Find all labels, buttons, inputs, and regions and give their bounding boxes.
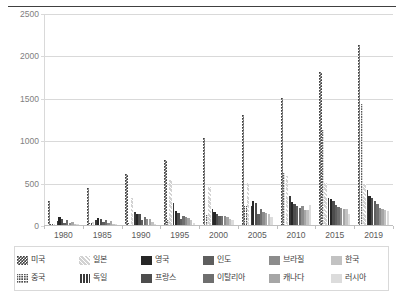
legend-item-한국[interactable]: 한국 <box>331 256 393 265</box>
chart-legend: 미국일본영국인도브라질한국중국독일프랑스이탈리아캐나다러시아 <box>14 246 389 291</box>
bar-russia-2000 <box>231 220 233 225</box>
bar-group <box>164 13 195 225</box>
x-tick-mark <box>354 226 355 229</box>
legend-item-독일[interactable]: 독일 <box>79 274 141 283</box>
legend-item-중국[interactable]: 중국 <box>17 274 79 283</box>
x-tick-mark <box>160 226 161 229</box>
bar-group <box>319 13 350 225</box>
legend-label: 중국 <box>31 274 45 282</box>
bar-usa-1990 <box>125 174 127 225</box>
legend-label: 러시아 <box>345 274 366 282</box>
bar-group <box>125 13 156 225</box>
x-tick-label: 2000 <box>209 230 228 240</box>
bar-russia-1990 <box>154 224 156 225</box>
y-tick-mark <box>41 56 44 57</box>
y-tick-label: 1000 <box>20 136 39 146</box>
legend-swatch-icon <box>203 256 214 265</box>
x-tick-label: 1985 <box>93 230 112 240</box>
y-tick-label: 500 <box>25 179 39 189</box>
x-tick-mark <box>122 226 123 229</box>
x-tick-label: 1990 <box>131 230 150 240</box>
bar-group <box>358 13 389 225</box>
x-tick-label: 1995 <box>170 230 189 240</box>
y-tick-label: 0 <box>34 221 39 231</box>
x-tick-mark <box>83 226 84 229</box>
legend-label: 프랑스 <box>155 274 176 282</box>
bar-usa-1980 <box>48 201 50 225</box>
y-tick-mark <box>41 141 44 142</box>
legend-item-영국[interactable]: 영국 <box>141 256 203 265</box>
bar-chart: 05001000150020002500 1980198519901995200… <box>0 0 403 301</box>
legend-swatch-icon <box>331 274 342 283</box>
bar-group <box>242 13 273 225</box>
legend-swatch-icon <box>269 256 280 265</box>
legend-item-이탈리아[interactable]: 이탈리아 <box>203 274 269 283</box>
legend-swatch-icon <box>203 274 214 283</box>
bar-usa-2000 <box>203 138 205 225</box>
legend-label: 일본 <box>93 256 107 264</box>
legend-item-브라질[interactable]: 브라질 <box>269 256 331 265</box>
legend-label: 한국 <box>345 256 359 264</box>
bar-russia-1985 <box>115 224 117 225</box>
legend-item-인도[interactable]: 인도 <box>203 256 269 265</box>
bar-russia-2015 <box>348 214 350 225</box>
legend-label: 캐나다 <box>283 274 304 282</box>
y-tick-mark <box>41 99 44 100</box>
y-axis-line <box>44 14 45 226</box>
legend-item-일본[interactable]: 일본 <box>79 256 141 265</box>
legend-label: 인도 <box>217 256 231 264</box>
bar-group <box>87 13 118 225</box>
y-tick-label: 2000 <box>20 51 39 61</box>
top-divider-rule <box>8 6 396 7</box>
x-tick-mark <box>44 226 45 229</box>
x-tick-mark <box>393 226 394 229</box>
x-tick-mark <box>315 226 316 229</box>
bar-russia-2019 <box>387 211 389 225</box>
legend-swatch-icon <box>141 274 152 283</box>
bar-group <box>203 13 234 225</box>
bar-group <box>281 13 312 225</box>
legend-swatch-icon <box>79 256 90 265</box>
x-axis-line <box>44 225 393 226</box>
bar-russia-2005 <box>270 217 272 225</box>
x-tick-mark <box>277 226 278 229</box>
x-tick-label: 2019 <box>364 230 383 240</box>
x-tick-mark <box>238 226 239 229</box>
legend-swatch-icon <box>141 256 152 265</box>
legend-label: 이탈리아 <box>217 274 245 282</box>
y-tick-mark <box>41 184 44 185</box>
legend-item-프랑스[interactable]: 프랑스 <box>141 274 203 283</box>
legend-swatch-icon <box>17 274 28 283</box>
bar-usa-1995 <box>164 160 166 225</box>
bar-russia-1995 <box>193 223 195 225</box>
legend-label: 미국 <box>31 256 45 264</box>
legend-row: 중국독일프랑스이탈리아캐나다러시아 <box>17 269 386 287</box>
x-tick-label: 2010 <box>287 230 306 240</box>
legend-label: 영국 <box>155 256 169 264</box>
legend-item-미국[interactable]: 미국 <box>17 256 79 265</box>
plot-area: 05001000150020002500 1980198519901995200… <box>44 14 393 226</box>
bar-russia-2010 <box>309 205 311 225</box>
legend-swatch-icon <box>79 274 90 283</box>
legend-item-러시아[interactable]: 러시아 <box>331 274 393 283</box>
bar-group <box>48 13 79 225</box>
bar-usa-1985 <box>87 188 89 225</box>
legend-row: 미국일본영국인도브라질한국 <box>17 251 386 269</box>
legend-swatch-icon <box>269 274 280 283</box>
legend-label: 독일 <box>93 274 107 282</box>
x-tick-label: 2015 <box>325 230 344 240</box>
x-tick-mark <box>199 226 200 229</box>
y-tick-label: 2500 <box>20 9 39 19</box>
x-tick-label: 1980 <box>54 230 73 240</box>
legend-label: 브라질 <box>283 256 304 264</box>
y-tick-label: 1500 <box>20 94 39 104</box>
legend-swatch-icon <box>331 256 342 265</box>
y-tick-mark <box>41 14 44 15</box>
legend-swatch-icon <box>17 256 28 265</box>
bar-russia-1980 <box>76 224 78 225</box>
legend-item-캐나다[interactable]: 캐나다 <box>269 274 331 283</box>
x-tick-label: 2005 <box>248 230 267 240</box>
